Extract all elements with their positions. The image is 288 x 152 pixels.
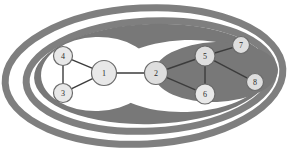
node-circle-3[interactable]	[54, 84, 73, 103]
node-circle-1[interactable]	[92, 61, 117, 86]
node-circle-4[interactable]	[54, 47, 73, 66]
graph-node-2[interactable]: 2	[145, 62, 168, 85]
node-circle-5[interactable]	[195, 46, 215, 66]
node-circle-6[interactable]	[195, 84, 215, 104]
node-circle-2[interactable]	[145, 62, 168, 85]
graph-canvas: 12345678	[0, 0, 288, 152]
graph-figure: 12345678	[0, 0, 288, 152]
graph-node-6[interactable]: 6	[195, 84, 215, 104]
graph-node-5[interactable]: 5	[195, 46, 215, 66]
graph-node-7[interactable]: 7	[233, 37, 250, 54]
node-circle-8[interactable]	[247, 74, 264, 91]
node-circle-7[interactable]	[233, 37, 250, 54]
graph-node-4[interactable]: 4	[54, 47, 73, 66]
graph-node-3[interactable]: 3	[54, 84, 73, 103]
graph-node-8[interactable]: 8	[247, 74, 264, 91]
graph-node-1[interactable]: 1	[92, 61, 117, 86]
